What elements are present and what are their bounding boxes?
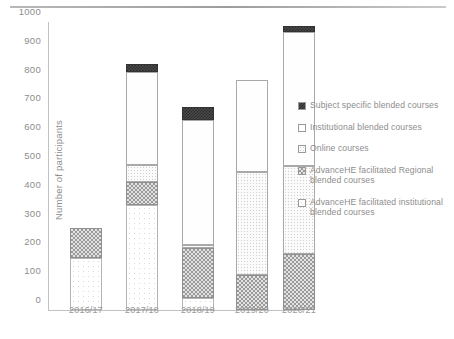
bar-segment[interactable] xyxy=(126,165,158,182)
legend-swatch-icon xyxy=(298,145,306,153)
y-axis-tick-label: 100 xyxy=(24,265,48,276)
legend-swatch-icon xyxy=(298,199,306,207)
chart-legend: Subject specific blended coursesInstitut… xyxy=(298,100,448,229)
bar-segment[interactable] xyxy=(182,245,214,248)
legend-swatch-icon xyxy=(298,102,306,110)
bar-segment[interactable] xyxy=(283,254,315,310)
legend-item[interactable]: AdvanceHE facilitated Regional blended c… xyxy=(298,165,448,186)
bar-segment[interactable] xyxy=(126,64,158,73)
bar-segment[interactable] xyxy=(182,120,214,245)
y-axis-tick-label: 0 xyxy=(35,294,48,305)
bar-segment[interactable] xyxy=(70,258,102,310)
x-axis-tick-label: 2020/21 xyxy=(269,305,329,315)
x-axis-tick-label: 2017/18 xyxy=(112,305,172,315)
y-axis-tick-label: 900 xyxy=(24,34,48,45)
bar-segment[interactable] xyxy=(126,205,158,310)
legend-item[interactable]: Subject specific blended courses xyxy=(298,100,448,111)
bar-segment[interactable] xyxy=(236,80,268,172)
y-axis-tick-label: 300 xyxy=(24,207,48,218)
y-axis-tick-label: 500 xyxy=(24,150,48,161)
bar-segment[interactable] xyxy=(182,248,214,298)
bar-segment[interactable] xyxy=(126,72,158,164)
legend-item[interactable]: Institutional blended courses xyxy=(298,122,448,133)
legend-label: Institutional blended courses xyxy=(310,122,422,133)
y-axis-tick-label: 1000 xyxy=(19,6,48,17)
plot-area: 01002003004005006007008009001000 xyxy=(48,22,300,310)
bar-segment[interactable] xyxy=(236,172,268,276)
bar-segment[interactable] xyxy=(70,228,102,258)
x-axis-tick-label: 2016/17 xyxy=(56,305,116,315)
x-axis-tick-label: 2018/19 xyxy=(168,305,228,315)
legend-swatch-icon xyxy=(298,124,306,132)
y-axis-tick-label: 400 xyxy=(24,178,48,189)
y-axis-tick-label: 600 xyxy=(24,121,48,132)
legend-swatch-icon xyxy=(298,167,306,175)
bar-segment[interactable] xyxy=(126,182,158,205)
y-axis-tick-label: 200 xyxy=(24,236,48,247)
legend-label: AdvanceHE facilitated Regional blended c… xyxy=(310,165,448,186)
y-axis-tick-label: 800 xyxy=(24,63,48,74)
legend-label: AdvanceHE facilitated institutional blen… xyxy=(310,197,448,218)
bar-segment[interactable] xyxy=(283,26,315,32)
y-axis-tick-label: 700 xyxy=(24,92,48,103)
legend-item[interactable]: Online courses xyxy=(298,143,448,154)
stacked-bar-chart: Number of participants 01002003004005006… xyxy=(0,0,454,339)
legend-label: Subject specific blended courses xyxy=(310,100,438,111)
legend-label: Online courses xyxy=(310,143,369,154)
legend-item[interactable]: AdvanceHE facilitated institutional blen… xyxy=(298,197,448,218)
bar-segment[interactable] xyxy=(182,107,214,120)
